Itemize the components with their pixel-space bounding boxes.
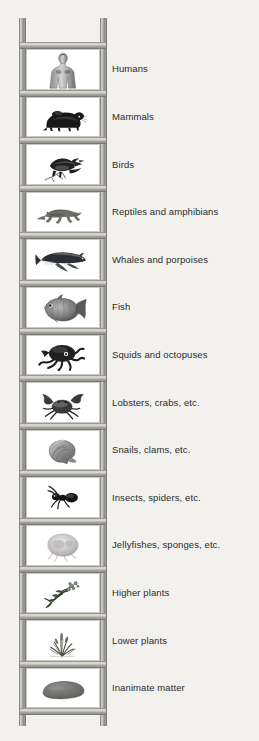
ladder-step-label: Squids and octopuses bbox=[112, 349, 258, 360]
ladder-step-label: Lobsters, crabs, etc. bbox=[112, 397, 258, 408]
crab-icon bbox=[27, 383, 99, 422]
ladder-rung bbox=[20, 613, 106, 620]
ladder-rung bbox=[20, 137, 106, 144]
ladder-rung bbox=[20, 518, 106, 525]
ladder-step-9 bbox=[26, 430, 100, 471]
ladder-step-label: Mammals bbox=[112, 111, 258, 122]
jellyfish-icon bbox=[27, 526, 99, 565]
ladder-step-14 bbox=[26, 668, 100, 709]
ladder-step-label: Higher plants bbox=[112, 587, 258, 598]
ladder-rung bbox=[20, 423, 106, 430]
rock-icon bbox=[27, 669, 99, 708]
ladder-rung bbox=[20, 470, 106, 477]
ladder-rung bbox=[20, 232, 106, 239]
whale-icon bbox=[27, 240, 99, 279]
fish-icon bbox=[27, 288, 99, 327]
ladder-step-label: Fish bbox=[112, 301, 258, 312]
ladder-step-2 bbox=[26, 97, 100, 138]
ladder-step-6 bbox=[26, 287, 100, 328]
ladder-step-label: Whales and porpoises bbox=[112, 254, 258, 265]
bird-on-branch-icon bbox=[27, 145, 99, 184]
ladder-step-13 bbox=[26, 620, 100, 661]
ladder-step-label: Birds bbox=[112, 159, 258, 170]
ladder-step-label: Insects, spiders, etc. bbox=[112, 492, 258, 503]
ladder-rung bbox=[20, 661, 106, 668]
ladder-step-label: Humans bbox=[112, 63, 258, 74]
ladder-diagram: HumansMammalsBirdsReptiles and amphibian… bbox=[0, 0, 259, 741]
ladder-rung bbox=[20, 375, 106, 382]
octopus-icon bbox=[27, 336, 99, 375]
ladder-step-4 bbox=[26, 192, 100, 233]
ladder-step-11 bbox=[26, 525, 100, 566]
ant-icon bbox=[27, 478, 99, 517]
ladder-rung bbox=[20, 328, 106, 335]
moss-grass-icon bbox=[27, 621, 99, 660]
ladder-frame bbox=[19, 18, 107, 726]
ladder-step-1 bbox=[26, 49, 100, 90]
ladder-rung bbox=[20, 566, 106, 573]
ladder-rung bbox=[20, 185, 106, 192]
ladder-step-label: Lower plants bbox=[112, 635, 258, 646]
ladder-step-12 bbox=[26, 573, 100, 614]
ladder-rung bbox=[20, 42, 106, 49]
ladder-step-8 bbox=[26, 382, 100, 423]
ladder-step-label: Reptiles and amphibians bbox=[112, 206, 258, 217]
ladder-step-label: Snails, clams, etc. bbox=[112, 444, 258, 455]
snail-shell-icon bbox=[27, 431, 99, 470]
ladder-step-label: Jellyfishes, sponges, etc. bbox=[112, 539, 258, 550]
rodent-icon bbox=[27, 98, 99, 137]
ladder-step-3 bbox=[26, 144, 100, 185]
ladder-step-10 bbox=[26, 477, 100, 518]
ladder-step-5 bbox=[26, 239, 100, 280]
ladder-rung bbox=[20, 708, 106, 715]
ladder-rung bbox=[20, 280, 106, 287]
ladder-step-7 bbox=[26, 335, 100, 376]
lizard-icon bbox=[27, 193, 99, 232]
ladder-rung bbox=[20, 90, 106, 97]
ladder-step-label: Inanimate matter bbox=[112, 682, 258, 693]
flowering-plant-icon bbox=[27, 574, 99, 613]
human-torso-icon bbox=[27, 50, 99, 89]
